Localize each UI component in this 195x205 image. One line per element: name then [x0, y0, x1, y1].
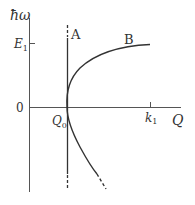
e1-label: E1	[13, 37, 28, 53]
curve-b	[67, 45, 150, 108]
curve-a-label: A	[70, 27, 81, 42]
x-axis-label: Q	[172, 112, 184, 128]
lower-branch-dashed	[97, 174, 106, 189]
y-axis-label: ħω	[10, 7, 31, 23]
curve-b-label: B	[124, 32, 134, 47]
origin-label: 0	[16, 101, 24, 115]
k1-label: k1	[145, 111, 157, 126]
lower-branch	[67, 107, 97, 174]
dispersion-diagram: ħω E1 A B 0 Q0 k1 Q	[0, 0, 195, 205]
q0-label: Q0	[52, 114, 67, 130]
